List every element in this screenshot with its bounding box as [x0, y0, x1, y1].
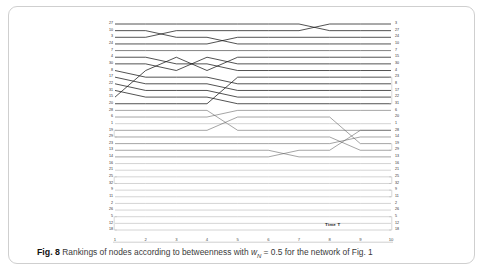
rank-label-right: 22	[395, 95, 417, 99]
rank-label-left: 2	[91, 202, 113, 206]
rank-label-right: 14	[395, 135, 417, 139]
x-tick-label-1: 1	[114, 237, 116, 242]
rank-label-left: 14	[91, 155, 113, 159]
x-tick-label-5: 5	[236, 237, 238, 242]
rank-label-left: 28	[91, 109, 113, 113]
rank-label-right: 11	[395, 195, 417, 199]
rank-line-node-6	[115, 110, 391, 117]
rank-label-left: 17	[91, 75, 113, 79]
rank-label-right: 25	[395, 175, 417, 179]
x-tick-label-6: 6	[267, 237, 269, 242]
rank-label-left: 6	[91, 115, 113, 119]
rank-label-right: 21	[395, 168, 417, 172]
rank-label-left: 7	[91, 49, 113, 53]
rank-label-right: 9	[395, 188, 417, 192]
rank-label-left: 30	[91, 62, 113, 66]
rank-label-left: 3	[91, 35, 113, 39]
tie-bracket-right	[389, 177, 392, 184]
rank-line-node-13	[115, 150, 391, 157]
rank-label-right: 3	[395, 22, 417, 26]
rank-label-right: 4	[395, 69, 417, 73]
rank-label-right: 12	[395, 222, 417, 226]
rank-label-left: 15	[91, 95, 113, 99]
rank-label-left: 16	[91, 162, 113, 166]
rank-label-left: 25	[91, 175, 113, 179]
rank-lines-svg	[113, 21, 393, 233]
rank-label-right: 23	[395, 75, 417, 79]
tie-bracket-left	[114, 177, 117, 184]
rank-label-right: 32	[395, 182, 417, 186]
x-tick-label-7: 7	[298, 237, 300, 242]
caption-full-text: Fig. 8 Rankings of nodes according to be…	[9, 7, 10, 8]
rank-label-right: 20	[395, 115, 417, 119]
rank-label-left: 10	[91, 29, 113, 33]
rank-label-right: 17	[395, 89, 417, 93]
x-tick-label-9: 9	[359, 237, 361, 242]
rank-label-left: 4	[91, 55, 113, 59]
rank-line-node-23	[115, 137, 391, 144]
caption-text-pre: Rankings of nodes according to betweenne…	[62, 247, 251, 257]
rank-label-left: 27	[91, 22, 113, 26]
tie-bracket-left	[114, 130, 117, 137]
figure-number: Fig. 8	[37, 247, 60, 257]
rank-label-left: 20	[91, 102, 113, 106]
left-rank-axis: 2710324743081722311520286119292313141621…	[91, 21, 113, 227]
right-rank-axis: 3272410715304238172231620128141929131621…	[395, 21, 417, 227]
rank-label-right: 19	[395, 142, 417, 146]
rank-label-left: 19	[91, 129, 113, 133]
rank-label-right: 2	[395, 202, 417, 206]
plot-area	[113, 21, 393, 233]
rank-label-right: 1	[395, 122, 417, 126]
rank-label-right: 7	[395, 49, 417, 53]
tie-bracket-right	[389, 190, 392, 197]
rank-label-left: 21	[91, 168, 113, 172]
rank-label-left: 24	[91, 42, 113, 46]
caption-text-post: = 0.5 for the network of Fig. 1	[261, 247, 373, 257]
rank-label-right: 8	[395, 82, 417, 86]
rank-label-right: 13	[395, 155, 417, 159]
rank-line-node-27	[115, 24, 391, 31]
x-tick-label-8: 8	[328, 237, 330, 242]
rank-label-left: 29	[91, 135, 113, 139]
rank-label-left: 8	[91, 69, 113, 73]
rank-label-left: 32	[91, 182, 113, 186]
x-tick-label-10: 10	[389, 237, 394, 242]
rank-line-node-24	[115, 37, 391, 44]
rank-label-left: 1	[91, 122, 113, 126]
rank-label-left: 11	[91, 195, 113, 199]
rank-label-left: 22	[91, 82, 113, 86]
rank-label-right: 31	[395, 102, 417, 106]
rank-label-right: 16	[395, 162, 417, 166]
rank-label-left: 5	[91, 215, 113, 219]
rank-label-right: 26	[395, 208, 417, 212]
x-tick-label-4: 4	[206, 237, 208, 242]
rank-label-right: 15	[395, 55, 417, 59]
x-axis-label: Time T	[325, 222, 340, 227]
x-axis: 12345678910	[113, 233, 395, 247]
rank-label-right: 29	[395, 148, 417, 152]
rank-label-right: 28	[395, 129, 417, 133]
x-tick-label-2: 2	[144, 237, 146, 242]
rank-label-left: 23	[91, 142, 113, 146]
figure-caption: Fig. 8 Rankings of nodes according to be…	[37, 247, 467, 259]
figure-card: 2710324743081722311520286119292313141621…	[8, 6, 475, 264]
rank-label-left: 13	[91, 148, 113, 152]
rank-label-right: 5	[395, 215, 417, 219]
rank-label-left: 31	[91, 89, 113, 93]
rank-label-right: 18	[395, 228, 417, 232]
rank-label-right: 24	[395, 35, 417, 39]
rank-label-left: 26	[91, 208, 113, 212]
rank-label-right: 30	[395, 62, 417, 66]
rank-label-right: 10	[395, 42, 417, 46]
rank-label-right: 27	[395, 29, 417, 33]
rank-line-node-28	[115, 110, 391, 130]
rank-label-left: 9	[91, 188, 113, 192]
x-tick-label-3: 3	[175, 237, 177, 242]
rank-label-left: 18	[91, 228, 113, 232]
rank-label-right: 6	[395, 109, 417, 113]
rank-label-left: 12	[91, 222, 113, 226]
tie-bracket-right	[389, 144, 392, 151]
